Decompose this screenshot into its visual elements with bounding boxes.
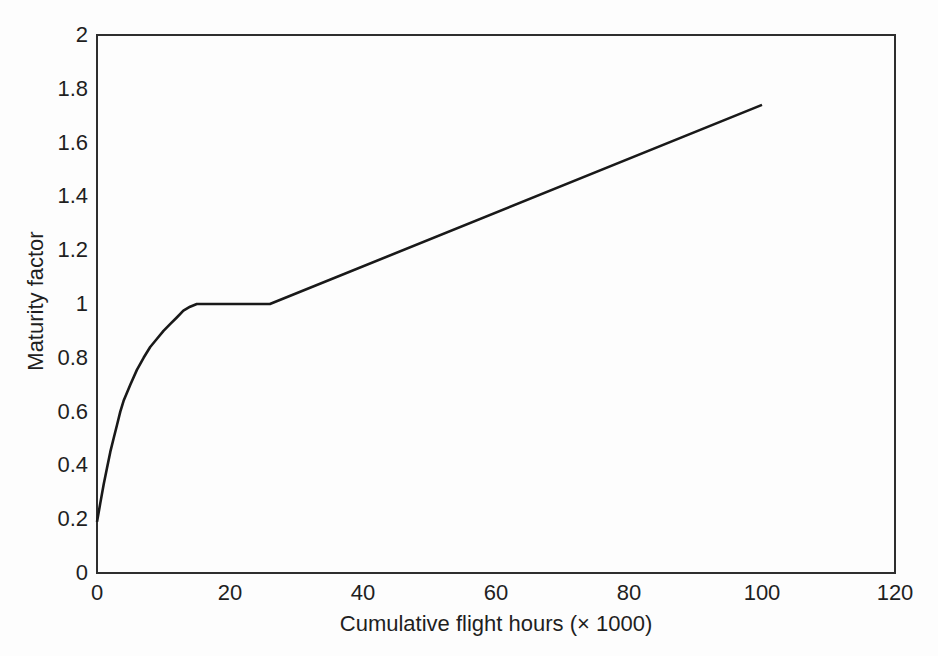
y-tick-label: 1.6 (0, 130, 88, 156)
y-tick-label: 0.4 (0, 452, 88, 478)
y-tick-label: 0.6 (0, 399, 88, 425)
y-tick-label: 1 (0, 291, 88, 317)
plot-canvas (0, 0, 938, 656)
x-tick-label: 60 (451, 580, 541, 606)
x-axis-title: Cumulative flight hours (× 1000) (196, 611, 796, 637)
maturity-factor-curve (97, 105, 762, 522)
x-tick-label: 120 (850, 580, 938, 606)
x-tick-label: 0 (52, 580, 142, 606)
y-tick-label: 2 (0, 22, 88, 48)
y-tick-label: 1.2 (0, 237, 88, 263)
x-tick-label: 40 (318, 580, 408, 606)
maturity-factor-chart: Maturity factor Cumulative flight hours … (0, 0, 938, 656)
x-tick-label: 100 (717, 580, 807, 606)
y-tick-label: 1.4 (0, 183, 88, 209)
y-tick-label: 0.2 (0, 506, 88, 532)
y-tick-label: 0.8 (0, 345, 88, 371)
x-tick-label: 20 (185, 580, 275, 606)
y-tick-label: 1.8 (0, 76, 88, 102)
x-tick-label: 80 (584, 580, 674, 606)
